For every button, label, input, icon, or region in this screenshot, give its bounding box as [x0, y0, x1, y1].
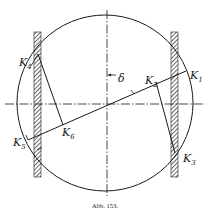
label-k6: K6	[61, 126, 75, 141]
right-wall	[171, 32, 178, 177]
label-delta-angle: δ	[118, 72, 125, 85]
label-k2: K2	[144, 74, 158, 89]
circular-path	[17, 15, 193, 191]
k4-k6-line	[38, 54, 63, 125]
delta-angle-tick	[131, 90, 134, 94]
k5-end-tick	[26, 135, 28, 140]
left-wall	[34, 32, 41, 177]
figure-abb-153: K4 K6 K5 K2 K1 K3 δ Abb. 153.	[0, 0, 209, 212]
figure-caption: Abb. 153.	[92, 202, 118, 209]
label-k1: K1	[189, 69, 203, 84]
label-k3: K3	[182, 152, 196, 167]
delta-arrowhead-icon	[108, 74, 111, 77]
